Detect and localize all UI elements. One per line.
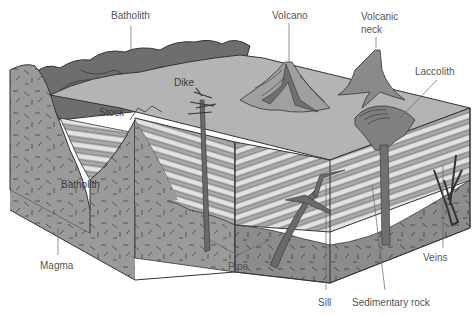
label-magma: Magma xyxy=(40,260,73,271)
label-veins: Veins xyxy=(423,252,447,263)
label-laccolith: Laccolith xyxy=(415,66,454,77)
label-dike: Dike xyxy=(174,77,194,88)
label-volcano: Volcano xyxy=(272,10,308,21)
label-batholith-top: Batholith xyxy=(111,10,150,21)
laccolith-feeder xyxy=(380,145,390,245)
label-stock: Stock xyxy=(99,107,124,118)
label-pipe: Pipe xyxy=(228,261,248,272)
label-batholith-inner: Batholith xyxy=(61,179,100,190)
label-sedimentary-rock: Sedimentary rock xyxy=(352,297,430,308)
label-sill: Sill xyxy=(318,297,331,308)
label-volcanic-neck-line2: neck xyxy=(361,24,382,35)
label-volcanic-neck-line1: Volcanic xyxy=(361,11,398,22)
